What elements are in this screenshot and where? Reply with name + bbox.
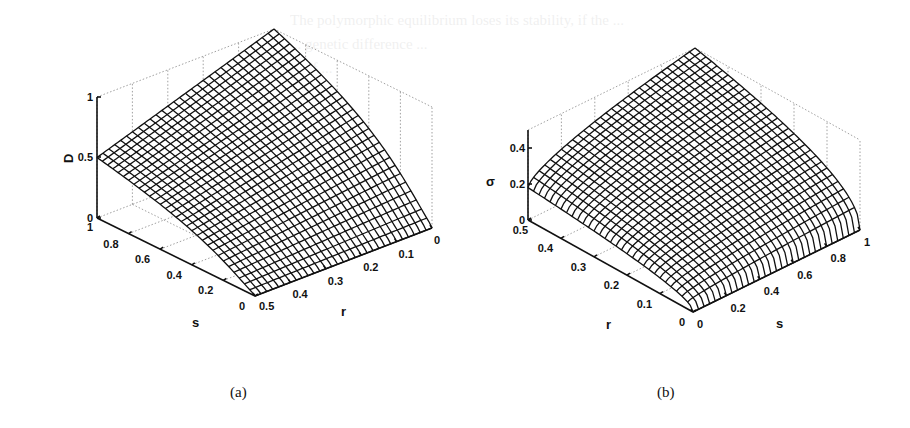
tick-label: 0.3 <box>328 275 343 287</box>
z-axis-label-b: σ <box>486 174 495 189</box>
r-axis-label-b: r <box>606 317 611 332</box>
tick-label: 0.6 <box>797 269 812 281</box>
tick-label: 1 <box>87 91 93 103</box>
s-axis-label-b: s <box>776 316 783 331</box>
tick-label: 0.2 <box>198 284 213 296</box>
tick-label: 0.8 <box>831 252 846 264</box>
tick-label: 0 <box>239 300 245 312</box>
tick-label: 0.5 <box>259 300 274 312</box>
tick-label: 0.6 <box>135 253 150 265</box>
surface-plot-b: 00.20.40.50.40.30.20.1000.20.40.60.81 σ … <box>486 48 870 401</box>
surface-plot-a: 00.5110.80.60.40.200.50.40.30.20.10 D s … <box>61 29 440 401</box>
figure-canvas: 00.5110.80.60.40.200.50.40.30.20.10 D s … <box>0 0 910 428</box>
tick-label: 0.4 <box>764 285 780 297</box>
tick-label: 0.5 <box>78 151 93 163</box>
tick-label: 0.4 <box>538 242 554 254</box>
caption-b: (b) <box>657 384 675 401</box>
tick-label: 0.4 <box>167 269 183 281</box>
tick-label: 1 <box>864 236 870 248</box>
tick-label: 0 <box>679 316 685 328</box>
tick-label: 0.2 <box>510 178 525 190</box>
tick-label: 0.2 <box>730 302 745 314</box>
tick-label: 0.5 <box>513 224 528 236</box>
tick-label: 0 <box>434 234 440 246</box>
caption-a: (a) <box>230 384 247 401</box>
tick-label: 0.1 <box>399 248 414 260</box>
tick-label: 0.8 <box>103 238 118 250</box>
tick-label: 1 <box>87 221 93 233</box>
s-axis-label-a: s <box>192 315 199 330</box>
tick-label: 0.2 <box>363 261 378 273</box>
r-axis-label-a: r <box>341 304 346 319</box>
tick-label: 0.1 <box>637 298 652 310</box>
tick-label: 0 <box>697 318 703 330</box>
z-axis-label-a: D <box>61 154 76 163</box>
tick-label: 0.4 <box>292 288 308 300</box>
tick-label: 0.2 <box>604 279 619 291</box>
tick-label: 0.3 <box>571 261 586 273</box>
tick-label: 0.4 <box>510 142 526 154</box>
